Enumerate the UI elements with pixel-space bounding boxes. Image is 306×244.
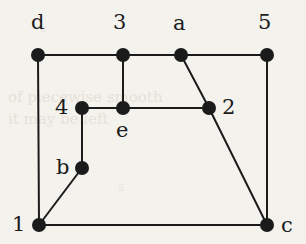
graph-node-3[interactable] <box>116 48 130 62</box>
graph-node-1[interactable] <box>32 218 46 232</box>
graph-node-b[interactable] <box>75 161 89 175</box>
graph-node-e[interactable] <box>116 101 130 115</box>
graph-node-label-4: 4 <box>55 97 68 118</box>
graph-node-label-c: c <box>281 215 293 236</box>
graph-node-d[interactable] <box>31 48 45 62</box>
graph-node-label-a: a <box>173 13 186 34</box>
graph-node-label-3: 3 <box>113 12 126 33</box>
graph-canvas <box>0 0 306 244</box>
graph-edge-2-c <box>209 108 267 225</box>
graph-node-c[interactable] <box>260 218 274 232</box>
edge-layer <box>38 55 267 225</box>
graph-node-label-5: 5 <box>258 12 271 33</box>
graph-edge-d-1 <box>38 55 39 225</box>
node-layer <box>31 48 274 232</box>
graph-node-label-1: 1 <box>12 214 25 235</box>
graph-node-2[interactable] <box>202 101 216 115</box>
graph-edge-a-2 <box>181 55 209 108</box>
graph-node-label-e: e <box>116 120 128 141</box>
graph-node-label-2: 2 <box>222 97 235 118</box>
graph-node-5[interactable] <box>260 48 274 62</box>
graph-node-a[interactable] <box>174 48 188 62</box>
graph-figure: of piecewise smoothit may be leftes d3a5… <box>0 0 306 244</box>
graph-node-label-b: b <box>56 157 69 178</box>
graph-node-label-d: d <box>31 12 44 33</box>
graph-node-4[interactable] <box>75 101 89 115</box>
